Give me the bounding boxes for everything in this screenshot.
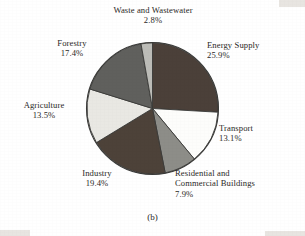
pie-label-transport-name: Transport [219, 123, 253, 133]
pie-label-waste-name: Waste and Wastewater [113, 5, 192, 15]
pie-label-agriculture-percent: 13.5% [2, 110, 86, 120]
pie-label-industry: Industry 19.4% [58, 168, 136, 189]
pie-chart-figure: Waste and Wastewater 2.8% Forestry 17.4%… [0, 0, 305, 236]
pie-label-agriculture-name: Agriculture [24, 100, 65, 110]
pie-label-forestry: Forestry 17.4% [33, 38, 111, 59]
pie-label-residential-line1: Residential and [175, 168, 230, 178]
pie-label-waste-and-wastewater: Waste and Wastewater 2.8% [88, 5, 218, 26]
pie-label-residential-percent: 7.9% [175, 189, 303, 199]
figure-caption: (b) [0, 212, 305, 222]
scan-edge-mark-top-right [279, 0, 305, 7]
pie-label-industry-percent: 19.4% [58, 178, 136, 188]
pie-label-energy-supply: Energy Supply 25.9% [207, 40, 299, 61]
pie-label-energy-name: Energy Supply [207, 40, 259, 50]
pie-label-industry-name: Industry [82, 168, 111, 178]
pie-label-energy-percent: 25.9% [207, 50, 299, 60]
pie-label-transport: Transport 13.1% [219, 123, 299, 144]
pie-label-transport-percent: 13.1% [219, 133, 299, 143]
pie-label-agriculture: Agriculture 13.5% [2, 100, 86, 121]
pie-label-residential-line2: Commercial Buildings [175, 178, 303, 188]
scan-edge-mark-bottom-left [0, 230, 30, 236]
scan-edge-mark-bottom-right [265, 231, 305, 236]
pie-slice-group [87, 43, 218, 174]
pie-chart-svg [84, 40, 221, 177]
pie-label-forestry-name: Forestry [57, 38, 86, 48]
pie-label-residential-and-commercial-buildings: Residential and Commercial Buildings 7.9… [175, 168, 303, 199]
pie-label-waste-percent: 2.8% [88, 15, 218, 25]
pie-label-forestry-percent: 17.4% [33, 48, 111, 58]
